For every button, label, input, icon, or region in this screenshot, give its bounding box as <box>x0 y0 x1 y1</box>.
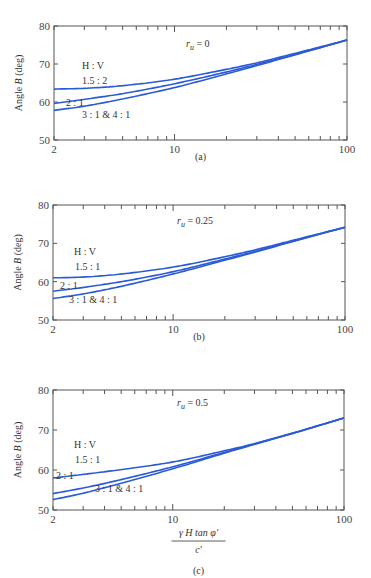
x-tick-label: 10 <box>167 513 179 525</box>
figure: 50607080210100Angle B (deg)ru = 0H : V1.… <box>0 0 371 578</box>
y-tick-label: 60 <box>38 464 50 476</box>
y-tick-label: 80 <box>39 20 51 32</box>
panel-caption: (b) <box>193 331 205 343</box>
y-tick-label: 50 <box>39 134 51 146</box>
ru-annotation: ru = 0.25 <box>177 215 213 229</box>
chart-panel-a: 50607080210100Angle B (deg)ru = 0H : V1.… <box>13 20 356 163</box>
curve-label-mid: 2 : 1 <box>56 470 74 481</box>
panel-caption: (c) <box>193 565 204 577</box>
curve-label-bot: 3 : 1 & 4 : 1 <box>82 109 130 120</box>
curve-label-bot: 3 : 1 & 4 : 1 <box>69 294 117 305</box>
curve-label-top: 1.5 : 1 <box>75 454 100 465</box>
ru-annotation: ru = 0 <box>186 38 210 52</box>
chart-panel-b: 50607080210100Angle B (deg)ru = 0.25H : … <box>12 199 354 343</box>
x-tick-label: 2 <box>50 323 56 335</box>
panel-caption: (a) <box>195 151 206 163</box>
x-tick-label: 10 <box>169 143 181 155</box>
curve-label-bot: 3 : 1 & 4 : 1 <box>95 483 143 494</box>
y-tick-label: 50 <box>38 314 50 326</box>
legend-title: H : V <box>74 246 97 257</box>
x-tick-label: 10 <box>168 323 180 335</box>
ru-annotation: ru = 0.5 <box>177 397 208 411</box>
x-axis-label-denominator: c′ <box>195 544 202 555</box>
x-tick-label: 2 <box>51 143 57 155</box>
y-axis-label: Angle B (deg) <box>12 234 24 291</box>
x-tick-label: 100 <box>336 513 353 525</box>
curve-label-mid: 2 : 1 <box>66 97 84 108</box>
y-tick-label: 60 <box>39 96 51 108</box>
y-tick-label: 70 <box>39 58 51 70</box>
curve-top <box>53 418 344 478</box>
curve-label-top: 1.5 : 1 <box>75 261 100 272</box>
x-tick-label: 2 <box>50 513 56 525</box>
curve-mid <box>54 40 347 103</box>
y-tick-label: 70 <box>38 237 50 249</box>
y-tick-label: 50 <box>38 504 50 516</box>
y-tick-label: 60 <box>38 276 50 288</box>
legend-title: H : V <box>82 60 105 71</box>
y-axis-label: Angle B (deg) <box>12 422 24 479</box>
y-tick-label: 80 <box>38 199 50 211</box>
x-tick-label: 100 <box>339 143 356 155</box>
curve-label-top: 1.5 : 2 <box>82 75 107 86</box>
y-tick-label: 70 <box>38 424 50 436</box>
curve-label-mid: 2 : 1 <box>60 280 78 291</box>
chart-panel-c: 50607080210100Angle B (deg)ru = 0.5H : V… <box>12 384 353 577</box>
curve-mid <box>53 227 345 291</box>
x-axis-label-numerator: γ H tan φ′ <box>179 527 219 538</box>
x-tick-label: 100 <box>337 323 354 335</box>
y-axis-label: Angle B (deg) <box>13 55 25 112</box>
legend-title: H : V <box>74 439 97 450</box>
y-tick-label: 80 <box>38 384 50 396</box>
